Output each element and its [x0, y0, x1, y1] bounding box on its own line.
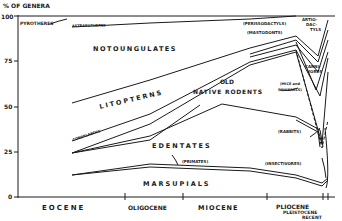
epoch-label: PLIOCENE [276, 203, 309, 210]
label-astrapotheres: ASTRAPOTHERES [72, 23, 106, 28]
epoch-label: MIOCENE [198, 204, 239, 212]
y-tick-label: 100 [1, 13, 14, 20]
label-mastodonts: (MASTODONTS) [247, 30, 283, 35]
label-native-rodents: NATIVE RODENTS [193, 88, 263, 95]
chart: % OF GENERA 100 75 50 25 0 EOCENE OLIGOC… [0, 0, 342, 221]
label-edentates: EDENTATES [152, 142, 212, 150]
y-tick-label: 25 [4, 148, 12, 155]
y-axis-title: % OF GENERA [3, 2, 50, 9]
label-pyrotheres: PYROTHERES [20, 21, 54, 26]
epoch-label: EOCENE [42, 204, 85, 212]
label-old: OLD [220, 78, 234, 85]
epoch-label: OLIGOCENE [128, 204, 167, 211]
label-notoungulates: NOTOUNGULATES [93, 45, 177, 53]
y-tick-label: 75 [4, 57, 12, 64]
label-rabbits: (RABBITS) [278, 129, 301, 134]
label-insectivores: (INSECTIVORES) [265, 161, 302, 166]
label-squirrels: SQUIRRELS) [278, 88, 302, 92]
epoch-label: RECENT [302, 215, 323, 220]
label-primates: (PRIMATES) [182, 159, 208, 164]
label-marsupials: MARSUPIALS [143, 180, 211, 188]
label-condylarths: CONDYLARTHS [72, 129, 101, 142]
label-mice: (MICE and [280, 82, 300, 86]
y-tick-label: 50 [4, 103, 12, 110]
label-tyls: TYLS [310, 27, 321, 32]
label-perissodactyls: (PERISSODACTYLS) [243, 21, 286, 26]
y-tick-label: 0 [8, 193, 12, 200]
label-vores: VORES [307, 69, 322, 74]
